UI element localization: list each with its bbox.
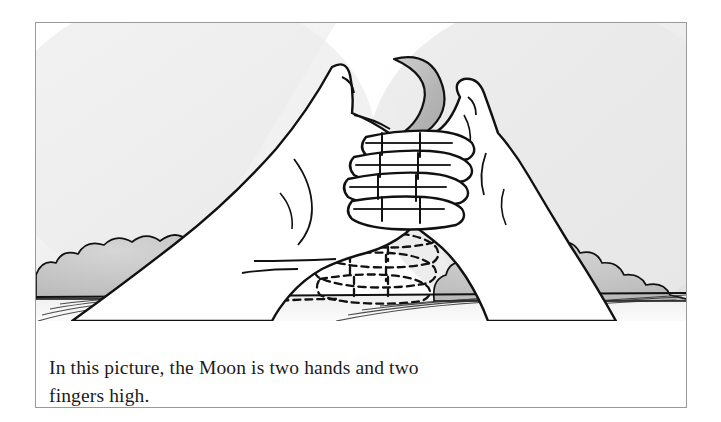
- figure-caption: In this picture, the Moon is two hands a…: [36, 321, 687, 407]
- figure-page: In this picture, the Moon is two hands a…: [0, 0, 721, 422]
- finger-little: [348, 197, 464, 230]
- illustration-area: [36, 23, 687, 321]
- illustration-svg: [36, 23, 687, 321]
- right-hand-fingers: [344, 131, 474, 230]
- figure-frame: In this picture, the Moon is two hands a…: [35, 22, 687, 408]
- caption-line-1: In this picture, the Moon is two hands a…: [49, 357, 419, 379]
- caption-line-2: fingers high.: [49, 385, 150, 407]
